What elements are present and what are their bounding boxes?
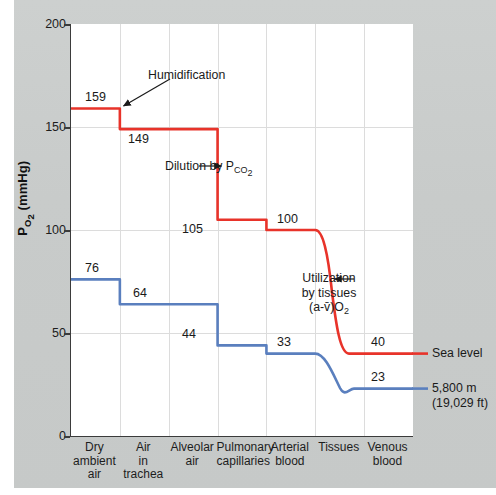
x-label-line: Pulmonary [217, 441, 266, 455]
x-label-line: air [70, 468, 119, 482]
x-label-line: capillaries [217, 455, 266, 469]
x-label-line: in [119, 455, 168, 469]
legend-label-altitude-line1: 5,800 m [432, 381, 488, 396]
legend-swatches-svg [0, 0, 496, 495]
x-label-line: blood [265, 455, 314, 469]
legend-label-sea-level: Sea level [432, 346, 483, 361]
x-label-alveolar-air: Alveolar air [168, 441, 217, 468]
legend-label-altitude: 5,800 m (19,029 ft) [432, 381, 488, 410]
x-label-line: Air [119, 441, 168, 455]
figure-container: PO2 (mmHg) 200 150 100 50 0 [0, 0, 496, 495]
x-label-line: Arterial [265, 441, 314, 455]
x-label-venous-blood: Venous blood [363, 441, 412, 468]
x-label-arterial-blood: Arterial blood [265, 441, 314, 468]
x-label-line: Alveolar [168, 441, 217, 455]
x-label-tissues: Tissues [314, 441, 363, 455]
x-label-air-in-trachea: Air in trachea [119, 441, 168, 482]
x-label-pulmonary-capillaries: Pulmonary capillaries [217, 441, 266, 468]
x-label-dry-ambient-air: Dry ambient air [70, 441, 119, 482]
legend-label-altitude-line2: (19,029 ft) [432, 396, 488, 411]
x-label-line: Dry [70, 441, 119, 455]
x-label-line: ambient [70, 455, 119, 469]
x-label-line: air [168, 455, 217, 469]
x-label-line: Venous [363, 441, 412, 455]
x-label-line: Tissues [314, 441, 363, 455]
x-label-line: trachea [119, 468, 168, 482]
x-label-line: blood [363, 455, 412, 469]
